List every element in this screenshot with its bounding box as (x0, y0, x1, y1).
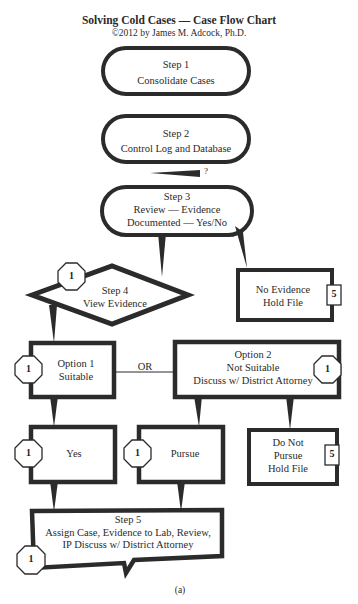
pursue-text: Pursue (150, 447, 220, 460)
option1-text: Option 1 Suitable (46, 357, 106, 383)
no-evidence-line2: Hold File (240, 296, 326, 309)
option2-text: Option 2 Not Suitable Discuss w/ Distric… (180, 348, 326, 387)
connector-option1-yes (50, 396, 58, 427)
step2-line2: Control Log and Database (103, 141, 249, 156)
step5-line3: IP Discuss w/ District Attorney (36, 539, 220, 552)
question-mark-label: ? (204, 166, 208, 177)
step3-text: Step 3 Review — Evidence Documented — Ye… (102, 190, 252, 229)
do-not-pursue-text: Do Not Pursue Hold File (251, 436, 325, 475)
option2-badge: 1 (314, 363, 341, 374)
connector-yes-step5 (50, 481, 58, 512)
step3-line1: Step 3 (102, 190, 252, 203)
option2-line2: Not Suitable (180, 361, 326, 374)
no-evidence-line1: No Evidence (240, 283, 326, 296)
option2-line1: Option 2 (180, 348, 326, 361)
option1-line2: Suitable (46, 370, 106, 383)
step4-text: Step 4 View Evidence (70, 284, 160, 310)
step1-text: Step 1 Consolidate Cases (103, 57, 249, 90)
step1-line1: Step 1 (103, 57, 249, 73)
connector-step4-option1 (49, 305, 57, 343)
do-not-pursue-line1: Do Not (251, 436, 325, 449)
option2-line3: Discuss w/ District Attorney (180, 374, 326, 387)
no-evidence-badge: 5 (327, 288, 341, 299)
connector-step2-question (150, 170, 200, 177)
chart-title: Solving Cold Cases — Case Flow Chart (0, 13, 358, 27)
or-label: OR (128, 360, 162, 373)
option1-line1: Option 1 (46, 357, 106, 370)
figure-caption: (a) (160, 585, 200, 597)
connector-step3-step4 (158, 233, 166, 277)
step3-line3: Documented — Yes/No (102, 216, 252, 229)
do-not-pursue-badge: 5 (325, 448, 339, 459)
connector-step3-noevidence (235, 226, 247, 268)
step3-line2: Review — Evidence (102, 203, 252, 216)
step4-line2: View Evidence (70, 297, 160, 310)
step2-text: Step 2 Control Log and Database (103, 126, 249, 156)
connector-option2-donotpursue (286, 396, 294, 430)
yes-text: Yes (44, 447, 104, 460)
step4-badge: 1 (58, 270, 85, 281)
step5-badge: 1 (17, 553, 45, 564)
connector-option2-pursue (194, 396, 202, 427)
yes-badge: 1 (15, 447, 42, 458)
connector-pursue-step5 (177, 481, 185, 512)
chart-copyright: ©2012 by James M. Adcock, Ph.D. (0, 28, 358, 40)
option1-badge: 1 (15, 363, 42, 374)
step5-text: Step 5 Assign Case, Evidence to Lab, Rev… (36, 514, 220, 552)
step4-line1: Step 4 (70, 284, 160, 297)
step1-line2: Consolidate Cases (103, 73, 249, 89)
step2-line1: Step 2 (103, 126, 249, 141)
step5-line1: Step 5 (36, 514, 220, 527)
step5-line2: Assign Case, Evidence to Lab, Review, (36, 527, 220, 540)
do-not-pursue-line2: Pursue (251, 449, 325, 462)
pursue-badge: 1 (124, 447, 151, 458)
do-not-pursue-line3: Hold File (251, 462, 325, 475)
no-evidence-text: No Evidence Hold File (240, 283, 326, 309)
